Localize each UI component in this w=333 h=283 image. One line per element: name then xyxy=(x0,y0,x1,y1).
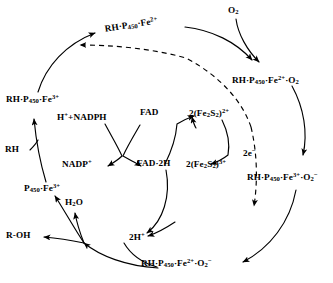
label-fe2s2-3plus: 2(Fe2S2)3+ xyxy=(186,159,226,170)
label-p450-fe3: P450·Fe3+ xyxy=(24,183,60,194)
arrow-to-water xyxy=(75,213,84,243)
label-h-nadph: H++NADPH xyxy=(57,112,107,122)
label-fe2s2-2plus: 2(Fe2S2)2+ xyxy=(189,108,229,119)
diagram-canvas xyxy=(0,0,333,283)
label-2-protons: 2H+ xyxy=(129,232,145,242)
arrow-oxy-to-superoxo xyxy=(292,86,305,155)
arrow-fe3-to-fe2 xyxy=(38,33,95,92)
label-rh: RH xyxy=(5,145,19,154)
arrow-p450fe3-to-rh-complex xyxy=(34,119,46,182)
arrow-fad2h-to-fad xyxy=(165,116,194,164)
label-rh-p450-fe2-o2: RH·P450·Fe2+·O2 xyxy=(232,75,299,86)
arrow-fe2-to-oxy-complex xyxy=(185,27,252,60)
arrow-to-roh xyxy=(44,237,84,243)
label-fad-2h: FAD·2H xyxy=(137,159,171,168)
label-2-electrons: 2e− xyxy=(243,148,256,158)
label-o2: O2 xyxy=(228,6,239,16)
label-rh-p450-fe3: RH·P450·Fe3+ xyxy=(6,94,59,105)
p450-cycle-diagram: O2 RH·P450·Fe2+ RH·P450·Fe2+·O2 RH·P450·… xyxy=(0,0,333,283)
arrow-fad2h-to-protons xyxy=(147,170,167,233)
arrow-rh-entering xyxy=(30,140,38,150)
label-rh-p450-fe2-superoxide: RH·P450·Fe2+·O2− xyxy=(141,258,212,269)
label-fad: FAD xyxy=(140,108,159,117)
label-nadp-plus: NADP+ xyxy=(62,159,92,169)
label-rh-p450-fe3-superoxide: RH·P450·Fe3+·O2− xyxy=(247,172,318,183)
arrow-nadph-to-nadp xyxy=(105,124,122,166)
arrow-superoxo-to-peroxo xyxy=(243,190,296,262)
label-r-oh: R-OH xyxy=(6,231,30,240)
label-water: H2O xyxy=(65,198,83,208)
dashed-electron-path-lower xyxy=(251,127,256,206)
